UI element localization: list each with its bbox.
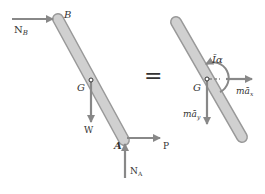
label-p: P <box>163 141 169 151</box>
free-body-diagram: NB B G W P A NA <box>12 9 169 178</box>
equals-sign: = <box>144 63 162 88</box>
center-of-mass-left <box>89 78 93 82</box>
label-w: W <box>84 125 94 135</box>
label-a: A <box>113 140 122 151</box>
label-g-right: G <box>193 82 201 93</box>
label-nb: NB <box>14 24 28 37</box>
label-b: B <box>63 9 71 20</box>
rod-kinetics-diagram: NB B G W P A NA = Īα māx māy G <box>0 0 265 194</box>
label-na: NA <box>130 166 143 177</box>
label-may: māy <box>183 109 201 121</box>
label-ialpha: Īα <box>211 54 223 65</box>
kinetic-diagram: Īα māx māy G <box>176 22 254 137</box>
label-g-left: G <box>77 82 85 93</box>
label-max: māx <box>236 86 254 97</box>
center-of-mass-right <box>205 77 209 81</box>
